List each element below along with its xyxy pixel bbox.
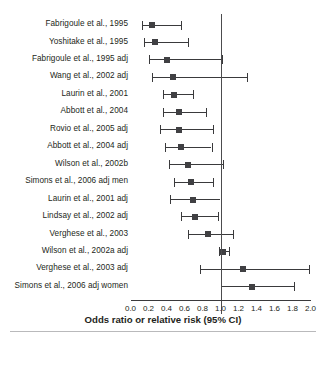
confidence-interval-line: [165, 147, 212, 148]
ci-lower-cap: [165, 143, 166, 152]
confidence-interval-line: [144, 42, 188, 43]
ci-lower-cap: [163, 108, 164, 117]
confidence-interval-line: [169, 164, 223, 165]
x-tick-label: 0.4: [158, 304, 176, 313]
x-tick-label: 1.8: [284, 304, 302, 313]
confidence-interval-line: [181, 216, 218, 217]
confidence-interval-line: [163, 94, 193, 95]
forest-plot-figure: Fabrigoule et al., 1995Yoshitake et al.,…: [0, 0, 326, 366]
confidence-interval-line: [149, 59, 222, 60]
ci-lower-cap: [144, 38, 145, 47]
ci-upper-cap: [193, 90, 194, 99]
x-tick-label: 1.6: [266, 304, 284, 313]
x-tick-label: 0.6: [176, 304, 194, 313]
ci-upper-cap: [213, 125, 214, 134]
ci-upper-cap: [233, 230, 234, 239]
confidence-interval-line: [142, 25, 181, 26]
point-estimate-marker: [170, 74, 176, 80]
ci-upper-cap: [229, 247, 230, 256]
confidence-interval-line: [160, 129, 213, 130]
ci-lower-cap: [174, 178, 175, 187]
x-tick-label: 0.2: [140, 304, 158, 313]
x-axis-line: [131, 300, 311, 301]
point-estimate-marker: [149, 22, 155, 28]
ci-lower-cap: [200, 265, 201, 274]
ci-lower-cap: [170, 195, 171, 204]
ci-upper-cap: [247, 73, 248, 82]
point-estimate-marker: [164, 57, 170, 63]
point-estimate-marker: [249, 284, 255, 290]
ci-upper-cap: [218, 212, 219, 221]
ci-lower-cap: [142, 21, 143, 30]
x-axis-title: Odds ratio or relative risk (95% CI): [0, 314, 326, 325]
ci-lower-cap: [152, 73, 153, 82]
point-estimate-marker: [152, 39, 158, 45]
ci-lower-cap: [181, 212, 182, 221]
ci-upper-cap: [294, 282, 295, 291]
footer-divider: [10, 331, 316, 332]
ci-lower-cap: [160, 125, 161, 134]
point-estimate-marker: [185, 162, 191, 168]
ci-lower-cap: [169, 160, 170, 169]
confidence-interval-line: [200, 269, 309, 270]
x-tick-label: 1.0: [212, 304, 230, 313]
point-estimate-marker: [171, 92, 177, 98]
x-tick-label: 0.0: [122, 304, 140, 313]
ci-upper-cap: [181, 21, 182, 30]
null-effect-reference-line: [221, 14, 222, 314]
confidence-interval-line: [221, 286, 295, 287]
point-estimate-marker: [188, 179, 194, 185]
ci-upper-cap: [309, 265, 310, 274]
confidence-interval-line: [163, 112, 206, 113]
point-estimate-marker: [192, 214, 198, 220]
ci-upper-cap: [213, 178, 214, 187]
x-tick-label: 0.8: [194, 304, 212, 313]
point-estimate-marker: [190, 197, 196, 203]
ci-lower-cap: [149, 55, 150, 64]
x-tick-label: 1.2: [230, 304, 248, 313]
point-estimate-marker: [176, 127, 182, 133]
x-tick-label: 2.0: [302, 304, 320, 313]
point-estimate-marker: [240, 266, 246, 272]
ci-upper-cap: [188, 38, 189, 47]
ci-upper-cap: [206, 108, 207, 117]
ci-upper-cap: [223, 160, 224, 169]
ci-lower-cap: [188, 230, 189, 239]
confidence-interval-line: [152, 77, 247, 78]
point-estimate-marker: [176, 109, 182, 115]
x-tick-label: 1.4: [248, 304, 266, 313]
ci-upper-cap: [212, 143, 213, 152]
ci-lower-cap: [163, 90, 164, 99]
ci-upper-cap: [222, 55, 223, 64]
point-estimate-marker: [178, 144, 184, 150]
point-estimate-marker: [205, 231, 211, 237]
